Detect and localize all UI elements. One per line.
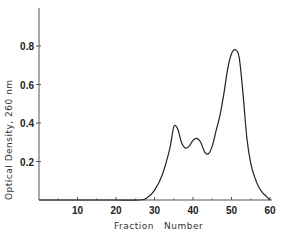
y-axis-label: Optical Density, 260 nm — [4, 79, 14, 200]
x-tick-label: 40 — [187, 205, 199, 216]
x-tick-label: 30 — [149, 205, 161, 216]
y-tick-label: 0.8 — [20, 41, 34, 52]
x-tick-label: 10 — [72, 205, 84, 216]
y-ticks: 0.20.40.60.8 — [20, 41, 41, 168]
x-tick-label: 20 — [110, 205, 122, 216]
y-tick-label: 0.4 — [20, 118, 34, 129]
y-tick-label: 0.6 — [20, 80, 34, 91]
x-axis-label: Fraction Number — [114, 221, 203, 231]
y-tick-label: 0.2 — [20, 157, 34, 168]
x-tick-label: 60 — [264, 205, 276, 216]
chart: 0.20.40.60.8 102030405060 Optical Densit… — [0, 0, 285, 240]
od-curve — [39, 50, 270, 200]
x-tick-label: 50 — [226, 205, 238, 216]
